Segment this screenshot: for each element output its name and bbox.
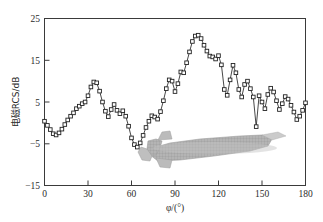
series-marker [130, 136, 134, 140]
y-tick-label-15: 15 [31, 56, 41, 66]
series-marker [60, 127, 64, 131]
series-marker [260, 100, 264, 104]
x-tick-label-120: 120 [211, 189, 226, 199]
series-marker [298, 114, 302, 118]
series-marker [257, 94, 261, 98]
series-marker [234, 71, 238, 75]
series-marker [292, 110, 296, 114]
series-marker [263, 107, 267, 111]
series-marker [173, 90, 177, 94]
y-tick-label-25: 25 [31, 14, 41, 24]
rcs-chart-figure: 25 15 5 −5 −15 0 30 60 90 120 150 180 φ/… [0, 0, 323, 222]
series-marker [86, 94, 90, 98]
series-marker [266, 93, 270, 97]
series-marker [127, 124, 131, 128]
series-marker [156, 117, 160, 121]
series-marker [72, 111, 76, 115]
x-tick-label-60: 60 [127, 189, 137, 199]
series-marker [162, 99, 166, 103]
y-tick-label-neg15: −15 [25, 181, 40, 191]
series-marker [141, 134, 145, 138]
series-marker [281, 102, 285, 106]
y-tick-label-neg5: −5 [30, 139, 40, 149]
chart-svg: 25 15 5 −5 −15 0 30 60 90 120 150 180 φ/… [0, 0, 323, 222]
series-marker [289, 104, 293, 108]
series-marker [272, 90, 276, 94]
series-marker [136, 145, 140, 149]
series-marker [191, 40, 195, 44]
series-marker [240, 95, 244, 99]
x-tick-label-180: 180 [298, 189, 313, 199]
series-marker [220, 63, 224, 67]
series-marker [104, 109, 108, 113]
series-marker [301, 109, 305, 113]
y-tick-label-5: 5 [35, 98, 40, 108]
series-marker [49, 128, 53, 132]
series-marker [101, 100, 105, 104]
x-tick-label-30: 30 [83, 189, 93, 199]
series-marker [46, 124, 50, 128]
series-marker [217, 54, 221, 58]
series-marker [199, 37, 203, 41]
series-marker [124, 114, 128, 118]
series-marker [246, 79, 250, 83]
series-marker [237, 88, 241, 92]
series-marker [269, 86, 273, 90]
series-marker [165, 87, 169, 91]
series-marker [144, 126, 148, 130]
series-marker [159, 110, 163, 114]
series-marker [109, 108, 113, 112]
series-marker [286, 97, 290, 101]
series-marker [202, 43, 206, 47]
series-marker [182, 71, 186, 75]
series-marker [223, 88, 227, 92]
series-marker [228, 78, 232, 82]
series-marker [225, 94, 229, 98]
series-marker [107, 115, 111, 119]
series-marker [249, 87, 253, 91]
series-marker [176, 82, 180, 86]
series-marker [147, 119, 151, 123]
series-marker [304, 101, 308, 105]
series-marker [112, 103, 116, 107]
x-tick-label-90: 90 [170, 189, 180, 199]
x-tick-label-0: 0 [42, 189, 47, 199]
series-marker [63, 123, 67, 127]
series-marker [185, 61, 189, 65]
series-marker [57, 131, 61, 135]
series-marker [231, 63, 235, 67]
series-marker [252, 95, 256, 99]
series-marker [89, 85, 93, 89]
series-marker [170, 79, 174, 83]
series-marker [188, 50, 192, 54]
series-marker [98, 89, 102, 93]
x-axis-title: φ/(°) [166, 203, 184, 214]
series-marker [275, 99, 279, 103]
y-axis-title: 电磁RCS/dB [10, 77, 21, 128]
series-marker [254, 125, 258, 129]
series-marker [205, 49, 209, 53]
series-marker [66, 118, 70, 122]
series-marker [278, 108, 282, 112]
series-marker [43, 119, 47, 123]
series-marker [83, 100, 87, 104]
x-tick-label-150: 150 [255, 189, 270, 199]
series-marker [121, 109, 125, 113]
series-marker [95, 81, 99, 85]
series-marker [138, 141, 142, 145]
